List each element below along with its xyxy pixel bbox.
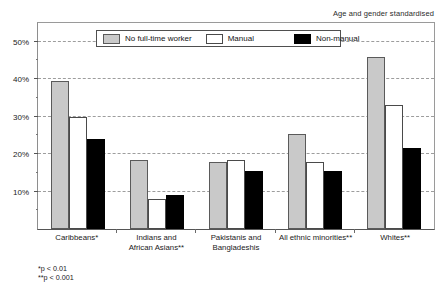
x-axis-label-line: African Asians** (117, 243, 197, 253)
bar-groups (38, 23, 434, 229)
x-axis-label-line: Whites** (355, 233, 435, 243)
bar[interactable] (69, 117, 87, 229)
x-axis-label: Caribbeans* (37, 233, 117, 252)
bar[interactable] (367, 57, 385, 229)
x-axis-label-line: Pakistanis and (196, 233, 276, 243)
legend-swatch-non-manual-icon (294, 34, 311, 44)
y-tick-label: 30% (13, 112, 29, 121)
bar-group-bars (196, 23, 275, 229)
bar[interactable] (306, 162, 324, 229)
bar-group (38, 23, 117, 229)
legend-item-0: No full-time worker (103, 34, 192, 44)
legend-swatch-no-full-time-worker-icon (103, 34, 120, 44)
bar-group (117, 23, 196, 229)
legend-label-2: Non-manual (316, 34, 360, 43)
bar[interactable] (166, 195, 184, 229)
footnotes: *p < 0.01 **p < 0.001 (38, 264, 74, 282)
plot-area: 10%20%30%40%50% (37, 22, 435, 230)
bar[interactable] (227, 160, 245, 229)
standardisation-note: Age and gender standardised (333, 9, 434, 18)
x-axis-label: All ethnic minorities** (276, 233, 356, 252)
bar[interactable] (148, 199, 166, 229)
legend-swatch-manual-icon (206, 34, 223, 44)
bar[interactable] (209, 162, 227, 229)
bar-group-bars (355, 23, 434, 229)
x-axis-label-line: Indians and (117, 233, 197, 243)
x-axis-label: Whites** (355, 233, 435, 252)
y-tick-label: 50% (13, 37, 29, 46)
bar-group-bars (117, 23, 196, 229)
legend-label-0: No full-time worker (125, 34, 192, 43)
bar-group (276, 23, 355, 229)
bar[interactable] (87, 139, 105, 229)
y-tick-label: 40% (13, 75, 29, 84)
bar[interactable] (51, 81, 69, 229)
bar-group (355, 23, 434, 229)
legend-item-1: Manual (206, 34, 254, 44)
bar[interactable] (245, 171, 263, 229)
y-tick-label: 20% (13, 150, 29, 159)
x-axis-label: Indians andAfrican Asians** (117, 233, 197, 252)
bar[interactable] (324, 171, 342, 229)
footnote-line-2: **p < 0.001 (38, 273, 74, 282)
x-axis-label: Pakistanis andBangladeshis (196, 233, 276, 252)
bar[interactable] (403, 148, 421, 229)
x-axis-labels: Caribbeans*Indians andAfrican Asians**Pa… (37, 233, 435, 252)
x-axis-label-line: All ethnic minorities** (276, 233, 356, 243)
bar-group-bars (276, 23, 355, 229)
bar-group-bars (38, 23, 117, 229)
bar[interactable] (288, 134, 306, 230)
legend: No full-time worker Manual Non-manual (96, 30, 341, 47)
bar[interactable] (130, 160, 148, 229)
y-tick-label: 10% (13, 187, 29, 196)
x-axis-label-line: Bangladeshis (196, 243, 276, 253)
chart-root: Age and gender standardised 10%20%30%40%… (0, 0, 442, 293)
x-axis-label-line: Caribbeans* (37, 233, 117, 243)
bar[interactable] (385, 105, 403, 229)
legend-item-2: Non-manual (294, 34, 360, 44)
legend-label-1: Manual (228, 34, 254, 43)
footnote-line-1: *p < 0.01 (38, 264, 74, 273)
bar-group (196, 23, 275, 229)
